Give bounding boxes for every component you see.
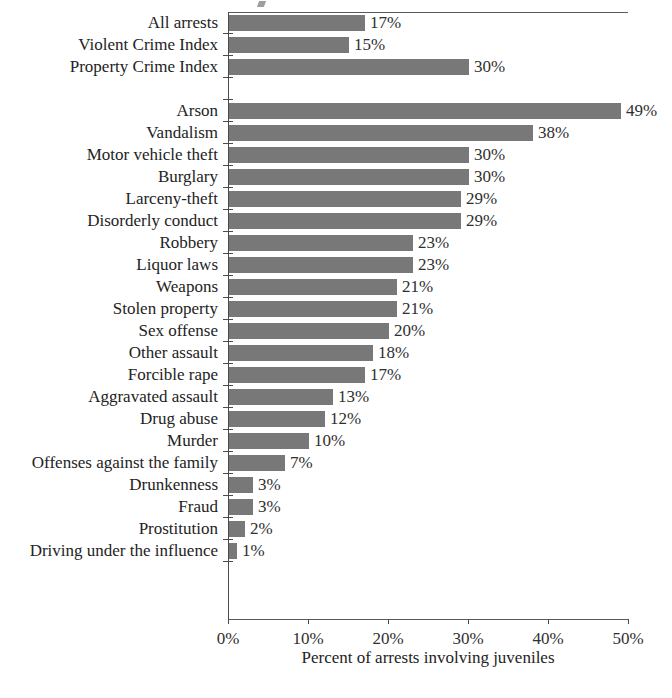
- bar-value-label: 18%: [378, 342, 409, 364]
- bar-row: 23%: [228, 254, 628, 276]
- bar-value-label: 29%: [466, 210, 497, 232]
- bar-value-label: 1%: [242, 540, 265, 562]
- bar-value-label: 20%: [394, 320, 425, 342]
- bar: [229, 169, 469, 185]
- bar-value-label: 30%: [474, 166, 505, 188]
- bar-value-label: 2%: [250, 518, 273, 540]
- bar: [229, 257, 413, 273]
- bar-row: 18%: [228, 342, 628, 364]
- bar-row: 29%: [228, 188, 628, 210]
- bar-row: 10%: [228, 430, 628, 452]
- bar-row: 7%: [228, 452, 628, 474]
- bar: [229, 345, 373, 361]
- bar: [229, 389, 333, 405]
- bar: [229, 455, 285, 471]
- category-label: Robbery: [0, 232, 218, 254]
- bar-row: 49%: [228, 100, 628, 122]
- bar-value-label: 23%: [418, 254, 449, 276]
- bar-value-label: 15%: [354, 34, 385, 56]
- bar-row: 23%: [228, 232, 628, 254]
- bar: [229, 103, 621, 119]
- y-axis-tick: [223, 561, 233, 562]
- bar-row: 20%: [228, 320, 628, 342]
- bar: [229, 499, 253, 515]
- bar-value-label: 17%: [370, 364, 401, 386]
- bar: [229, 15, 365, 31]
- category-label: All arrests: [0, 12, 218, 34]
- bar-row: 29%: [228, 210, 628, 232]
- bar: [229, 213, 461, 229]
- bar-value-label: 10%: [314, 430, 345, 452]
- bar-row: 38%: [228, 122, 628, 144]
- category-label: Fraud: [0, 496, 218, 518]
- clipped-title-fragment: [257, 1, 266, 7]
- bar: [229, 543, 237, 559]
- bar-value-label: 21%: [402, 298, 433, 320]
- category-label: Drug abuse: [0, 408, 218, 430]
- bar-value-label: 3%: [258, 474, 281, 496]
- bar-row: 15%: [228, 34, 628, 56]
- category-label: Larceny-theft: [0, 188, 218, 210]
- x-axis-tick-label: 20%: [348, 629, 428, 649]
- x-axis-tick-label: 0%: [188, 629, 268, 649]
- x-axis-tick: [628, 619, 629, 624]
- bar-value-label: 38%: [538, 122, 569, 144]
- bar-value-label: 7%: [290, 452, 313, 474]
- bar: [229, 433, 309, 449]
- bar-row: 13%: [228, 386, 628, 408]
- bar-row: 17%: [228, 364, 628, 386]
- bar-row: 1%: [228, 540, 628, 562]
- bar: [229, 59, 469, 75]
- category-label: Vandalism: [0, 122, 218, 144]
- x-axis-title: Percent of arrests involving juveniles: [228, 648, 628, 668]
- category-label: Drunkenness: [0, 474, 218, 496]
- x-axis-tick: [228, 619, 229, 624]
- bar: [229, 235, 413, 251]
- category-label: Liquor laws: [0, 254, 218, 276]
- category-label: Motor vehicle theft: [0, 144, 218, 166]
- bar-row: 17%: [228, 12, 628, 34]
- bar-row: 21%: [228, 298, 628, 320]
- bar-row: 3%: [228, 474, 628, 496]
- bar: [229, 301, 397, 317]
- bar-row: 30%: [228, 144, 628, 166]
- bar-value-label: 23%: [418, 232, 449, 254]
- bar-value-label: 30%: [474, 144, 505, 166]
- bar-value-label: 13%: [338, 386, 369, 408]
- bar-chart-figure: 17%15%30%49%38%30%30%29%29%23%23%21%21%2…: [0, 0, 672, 698]
- category-label: Stolen property: [0, 298, 218, 320]
- category-label: Driving under the influence: [0, 540, 218, 562]
- bar-value-label: 49%: [626, 100, 657, 122]
- x-axis-tick-label: 50%: [588, 629, 668, 649]
- category-label: Sex offense: [0, 320, 218, 342]
- bar: [229, 477, 253, 493]
- category-label: Other assault: [0, 342, 218, 364]
- category-label: Burglary: [0, 166, 218, 188]
- bar: [229, 125, 533, 141]
- category-label: Forcible rape: [0, 364, 218, 386]
- x-axis-tick: [308, 619, 309, 624]
- category-label: Property Crime Index: [0, 56, 218, 78]
- x-axis-line: [228, 619, 628, 620]
- x-axis-tick: [468, 619, 469, 624]
- bar: [229, 147, 469, 163]
- x-axis-tick-label: 40%: [508, 629, 588, 649]
- category-label: Murder: [0, 430, 218, 452]
- bar-value-label: 21%: [402, 276, 433, 298]
- category-label: Weapons: [0, 276, 218, 298]
- bar-row: 30%: [228, 166, 628, 188]
- bar: [229, 411, 325, 427]
- category-label: Prostitution: [0, 518, 218, 540]
- bar-row: 2%: [228, 518, 628, 540]
- category-label: Aggravated assault: [0, 386, 218, 408]
- x-axis-tick: [388, 619, 389, 624]
- x-axis-tick-label: 10%: [268, 629, 348, 649]
- category-label: Offenses against the family: [0, 452, 218, 474]
- bar: [229, 37, 349, 53]
- bar: [229, 191, 461, 207]
- bar: [229, 323, 389, 339]
- plot-area: 17%15%30%49%38%30%30%29%29%23%23%21%21%2…: [228, 12, 628, 620]
- category-label: Disorderly conduct: [0, 210, 218, 232]
- category-label: Violent Crime Index: [0, 34, 218, 56]
- x-axis-tick: [548, 619, 549, 624]
